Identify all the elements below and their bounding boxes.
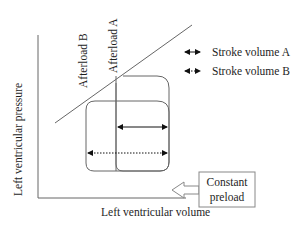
preload-hollow-arrow-icon	[172, 182, 199, 198]
pv-loop-diagram: Afterload B Afterload A Stroke volume A …	[0, 0, 300, 233]
afterload-a-label: Afterload A	[107, 18, 119, 73]
preload-line1: Constant	[207, 176, 249, 188]
x-axis-label: Left ventricular volume	[101, 206, 210, 218]
afterload-line	[55, 25, 192, 123]
afterload-b-label: Afterload B	[77, 33, 89, 88]
legend-label-b: Stroke volume B	[212, 65, 290, 77]
legend: Stroke volume A Stroke volume B	[185, 46, 291, 77]
legend-label-a: Stroke volume A	[212, 46, 291, 58]
preload-line2: preload	[210, 191, 245, 204]
loop-a	[116, 76, 169, 171]
y-axis-label: Left ventricular pressure	[12, 83, 25, 196]
loop-b	[86, 101, 169, 171]
